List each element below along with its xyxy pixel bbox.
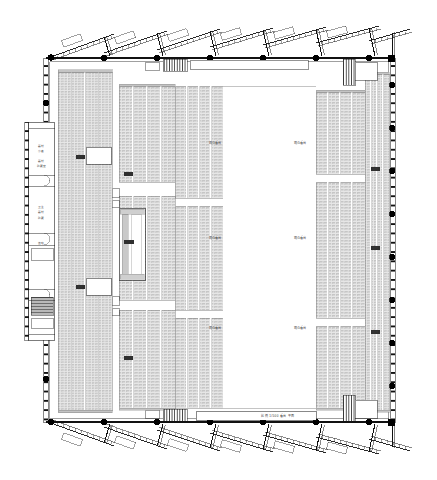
concourse-walkway	[190, 60, 308, 69]
room-label: 器材	[38, 144, 44, 148]
title-strip-label: 比例 1/500 看台 平面	[261, 413, 295, 418]
stair-run	[343, 395, 355, 421]
column-marker	[388, 419, 395, 426]
seating-block	[316, 182, 365, 318]
column-marker	[389, 254, 395, 260]
field-zone-label: 观众看台	[209, 325, 222, 330]
room-label: 贮藏	[38, 216, 44, 220]
left-inner-seating-blocks	[112, 84, 223, 410]
column-marker	[389, 82, 395, 88]
seating-block	[119, 84, 175, 182]
field-zone-label: 观众看台	[209, 235, 222, 240]
column-marker	[43, 100, 49, 106]
column-marker	[366, 55, 372, 61]
press-box	[119, 208, 145, 280]
column-marker	[389, 125, 395, 131]
column-marker	[154, 55, 160, 61]
column-marker	[313, 55, 319, 61]
title-strip	[196, 411, 316, 420]
seating-tier-label: 看台	[372, 166, 378, 171]
column-marker	[389, 340, 395, 346]
column-marker	[388, 55, 395, 62]
field-zone-label: 观众看台	[294, 325, 307, 330]
stair-run	[343, 59, 355, 85]
seating-tier-label: 看台	[372, 329, 378, 334]
column-marker	[101, 419, 107, 425]
right-outer-seating-tier: 看台 看台 看台	[365, 72, 389, 412]
column-marker	[48, 419, 54, 425]
column-marker	[154, 419, 160, 425]
seating-block	[175, 206, 223, 310]
left-service-rooms: 器材 小卖 器材 贮藏室 卫生 器材 贮藏 值班	[25, 122, 55, 340]
column-marker	[48, 54, 54, 60]
room-label: 卫生	[38, 205, 44, 209]
column-marker	[101, 55, 107, 61]
seating-block	[175, 318, 223, 408]
stair-hatch	[31, 297, 53, 315]
column-marker	[389, 383, 395, 389]
field-zone-label: 观众看台	[209, 140, 222, 145]
column-marker	[389, 297, 395, 303]
floor-plan-drawing: 器材 小卖 器材 贮藏室 卫生 器材 贮藏 值班	[0, 0, 437, 480]
central-field: 观众看台 观众看台 观众看台 观众看台 观众看台 观众看台	[209, 86, 316, 410]
room-label: 小卖	[38, 149, 44, 153]
seating-block	[119, 310, 175, 410]
vomitory-opening	[86, 147, 111, 164]
seating-tier-label: 看台	[77, 154, 83, 159]
seating-block	[316, 326, 365, 410]
room-label: 值班	[38, 241, 44, 245]
column-marker	[389, 168, 395, 174]
seating-tier-label: 看台	[77, 284, 83, 289]
field-zone-label: 观众看台	[294, 140, 307, 145]
right-inner-seating-blocks	[316, 90, 365, 410]
right-perimeter-wall	[391, 58, 396, 422]
column-marker	[43, 376, 49, 382]
vomitory-opening	[86, 278, 111, 295]
room-label: 贮藏室	[37, 164, 46, 168]
stair-run	[163, 59, 187, 71]
left-outer-seating-tier: 看台 看台	[58, 70, 112, 413]
seating-tier-label: 看台	[372, 245, 378, 250]
seating-block	[316, 90, 365, 174]
column-marker	[366, 419, 372, 425]
room-label: 器材	[38, 210, 44, 214]
column-marker	[389, 211, 395, 217]
room-label: 器材	[38, 159, 44, 163]
floor-plan-canvas: 器材 小卖 器材 贮藏室 卫生 器材 贮藏 值班	[0, 0, 437, 480]
field-zone-label: 观众看台	[294, 235, 307, 240]
stair-run	[163, 409, 187, 421]
